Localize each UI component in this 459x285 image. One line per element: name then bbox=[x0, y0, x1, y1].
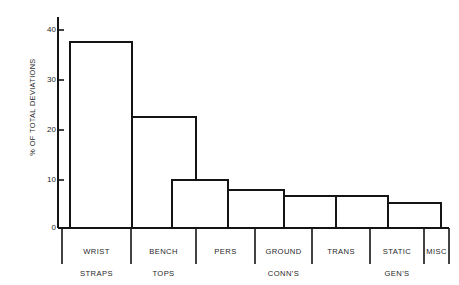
category-label-line-1: BENCH bbox=[131, 246, 196, 257]
category-label-pers: PERS bbox=[196, 235, 255, 268]
category-label-line-2: CONN'S bbox=[255, 268, 312, 279]
bar-static-gens bbox=[336, 196, 388, 228]
bar-wrist-straps bbox=[70, 42, 132, 228]
bar-pers bbox=[172, 180, 228, 228]
bar-misc bbox=[388, 203, 441, 228]
bars-group bbox=[70, 42, 441, 228]
category-label-misc: MISC bbox=[424, 235, 449, 268]
category-label-line-1: TRANS bbox=[312, 246, 370, 257]
bar-trans bbox=[284, 196, 336, 228]
category-label-line-1: MISC bbox=[424, 246, 449, 257]
category-label-line-1: WRIST bbox=[62, 246, 131, 257]
category-label-line-1: STATIC bbox=[370, 246, 424, 257]
category-label-line-2: STRAPS bbox=[62, 268, 131, 279]
category-label-trans: TRANS bbox=[312, 235, 370, 268]
category-label-line-2: TOPS bbox=[131, 268, 196, 279]
category-label-line-1: PERS bbox=[196, 246, 255, 257]
category-label-line-1: GROUND bbox=[255, 246, 312, 257]
bar-chart: % OF TOTAL DEVIATIONS 40 30 20 10 0 bbox=[0, 0, 459, 285]
bar-ground-conns bbox=[228, 190, 284, 228]
category-label-bench-tops: BENCH TOPS bbox=[131, 235, 196, 285]
category-label-static-gens: STATIC GEN'S bbox=[370, 235, 424, 285]
category-label-wrist-straps: WRIST STRAPS bbox=[62, 235, 131, 285]
category-label-line-2: GEN'S bbox=[370, 268, 424, 279]
category-label-ground-conns: GROUND CONN'S bbox=[255, 235, 312, 285]
